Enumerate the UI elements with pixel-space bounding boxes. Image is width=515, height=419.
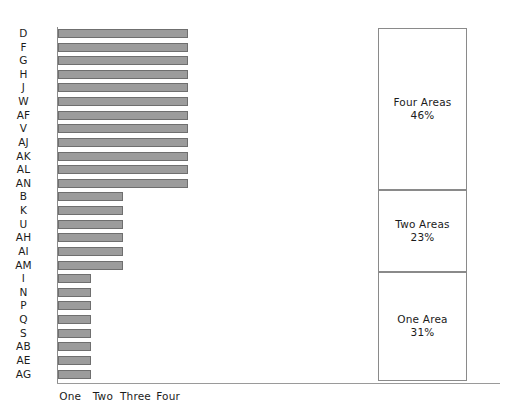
x-tick-label: Four (145, 390, 191, 402)
bar-category-label: J (0, 81, 47, 95)
bar-row: N (0, 286, 260, 300)
bar-row: J (0, 81, 260, 95)
bar-rect[interactable] (58, 124, 188, 133)
bar-rect[interactable] (58, 29, 188, 38)
bar-rect[interactable] (58, 56, 188, 65)
bar-row: V (0, 122, 260, 136)
bar-category-label: Q (0, 313, 47, 327)
bar-row: AF (0, 109, 260, 123)
bar-rect[interactable] (58, 356, 91, 365)
bar-category-label: K (0, 204, 47, 218)
stack-segment[interactable]: Four Areas46% (378, 28, 467, 190)
bar-category-label: H (0, 68, 47, 82)
bar-category-label: AN (0, 177, 47, 191)
bar-category-label: W (0, 95, 47, 109)
bar-row: Q (0, 313, 260, 327)
bar-category-label: G (0, 54, 47, 68)
bar-rect[interactable] (58, 165, 188, 174)
bar-row: AM (0, 259, 260, 273)
bar-category-label: AM (0, 259, 47, 273)
bar-category-label: D (0, 27, 47, 41)
bar-row: F (0, 41, 260, 55)
bar-row: AJ (0, 136, 260, 150)
bar-row: AE (0, 354, 260, 368)
bar-row: W (0, 95, 260, 109)
bar-row: H (0, 68, 260, 82)
bar-row: AH (0, 231, 260, 245)
bar-rect[interactable] (58, 192, 123, 201)
bar-rect[interactable] (58, 288, 91, 297)
horizontal-bar-chart: DFGHJWAFVAJAKALANBKUAHAIAMINPQSABAEAG (0, 0, 260, 419)
stack-segment-value: 31% (411, 326, 435, 339)
bar-row: S (0, 327, 260, 341)
stack-segment-value: 23% (411, 231, 435, 244)
bar-category-label: U (0, 218, 47, 232)
stacked-column-chart: Four Areas46%Two Areas23%One Area31% (378, 28, 467, 381)
bar-row: U (0, 218, 260, 232)
bar-category-label: AL (0, 163, 47, 177)
bar-category-label: AI (0, 245, 47, 259)
bar-row: AL (0, 163, 260, 177)
y-axis-line (57, 27, 58, 383)
bar-row: G (0, 54, 260, 68)
bar-rect[interactable] (58, 138, 188, 147)
bar-category-label: I (0, 272, 47, 286)
bar-row: P (0, 299, 260, 313)
bar-row: AI (0, 245, 260, 259)
bar-row: AK (0, 150, 260, 164)
bar-category-label: S (0, 327, 47, 341)
bar-row: AB (0, 340, 260, 354)
stack-segment[interactable]: Two Areas23% (378, 190, 467, 271)
bar-category-label: AH (0, 231, 47, 245)
bar-rect[interactable] (58, 179, 188, 188)
bar-row: D (0, 27, 260, 41)
bar-rect[interactable] (58, 247, 123, 256)
bar-rect[interactable] (58, 152, 188, 161)
bar-rect[interactable] (58, 220, 123, 229)
bar-rect[interactable] (58, 97, 188, 106)
stack-segment-value: 46% (411, 109, 435, 122)
bar-rect[interactable] (58, 301, 91, 310)
bar-category-label: B (0, 190, 47, 204)
bar-rect[interactable] (58, 70, 188, 79)
bar-row: K (0, 204, 260, 218)
bar-rect[interactable] (58, 83, 188, 92)
x-axis-line (57, 383, 500, 384)
bar-category-label: N (0, 286, 47, 300)
bar-rect[interactable] (58, 342, 91, 351)
bar-category-label: AG (0, 368, 47, 382)
stack-segment[interactable]: One Area31% (378, 272, 467, 381)
bar-rect[interactable] (58, 274, 91, 283)
bar-category-label: AE (0, 354, 47, 368)
bar-category-label: AJ (0, 136, 47, 150)
stack-segment-label: Four Areas (393, 96, 451, 109)
bar-category-label: AF (0, 109, 47, 123)
stack-segment-label: One Area (397, 313, 447, 326)
bar-rect[interactable] (58, 233, 123, 242)
chart-page: DFGHJWAFVAJAKALANBKUAHAIAMINPQSABAEAG On… (0, 0, 515, 419)
bar-rect[interactable] (58, 315, 91, 324)
bar-rect[interactable] (58, 370, 91, 379)
stack-segment-label: Two Areas (395, 218, 449, 231)
bar-rect[interactable] (58, 329, 91, 338)
bar-row: AN (0, 177, 260, 191)
bar-category-label: AK (0, 150, 47, 164)
bar-category-label: F (0, 41, 47, 55)
bar-rect[interactable] (58, 111, 188, 120)
bar-rect[interactable] (58, 206, 123, 215)
bar-rect[interactable] (58, 261, 123, 270)
bar-rect[interactable] (58, 43, 188, 52)
bar-row: I (0, 272, 260, 286)
bar-category-label: AB (0, 340, 47, 354)
bar-category-label: V (0, 122, 47, 136)
bar-row: B (0, 190, 260, 204)
bar-row: AG (0, 368, 260, 382)
bar-category-label: P (0, 299, 47, 313)
